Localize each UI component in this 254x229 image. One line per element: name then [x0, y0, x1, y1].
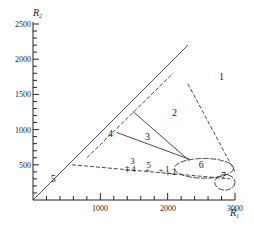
- y-tick-label: 1000: [15, 126, 31, 135]
- region-label-3: 3: [145, 131, 150, 142]
- x-tick-label: 1000: [92, 204, 108, 213]
- y-axis-label: R2: [32, 7, 42, 19]
- region-label-7: 7: [221, 170, 226, 181]
- chart: R1 R2 1000 2000 3000 500 1000 1500 2000 …: [0, 0, 254, 229]
- point-marker: +: [125, 165, 130, 175]
- point-marker: +: [158, 165, 163, 175]
- point-label: 4: [131, 164, 136, 174]
- point-marker: +: [165, 168, 170, 178]
- x-tick-label: 2000: [160, 204, 176, 213]
- y-ticks: [33, 24, 39, 193]
- region-label-5: 5: [51, 173, 56, 184]
- point-label: 2: [172, 167, 177, 177]
- region-labels: 1234567: [51, 71, 226, 184]
- point-label: 5: [146, 160, 151, 170]
- y-tick-label: 2500: [15, 20, 31, 29]
- y-tick-label: 2000: [15, 55, 31, 64]
- region-label-2: 2: [172, 107, 177, 118]
- dashed-parallel-line: [87, 73, 173, 157]
- y-tick-label: 500: [19, 161, 31, 170]
- data-points: +3+4+5+1+2: [125, 156, 176, 178]
- y-tick-label: 1500: [15, 90, 31, 99]
- plot-area: R1 R2 1000 2000 3000 500 1000 1500 2000 …: [0, 0, 254, 229]
- boundary-lines: [33, 45, 235, 200]
- boundary-3-line: [133, 111, 190, 160]
- region-label-1: 1: [219, 71, 224, 82]
- region-label-4: 4: [108, 128, 113, 139]
- x-ticks: [46, 193, 235, 200]
- boundary-4-line: [116, 132, 189, 159]
- x-tick-label: 3000: [227, 204, 243, 213]
- region-label-6: 6: [199, 159, 204, 170]
- boundary-5-line: [72, 165, 230, 179]
